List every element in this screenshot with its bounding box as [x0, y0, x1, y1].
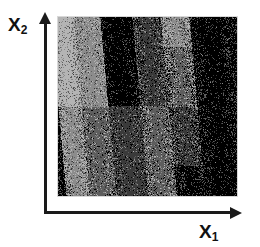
x-axis-label: X1	[199, 222, 218, 241]
y-axis-label-text: X	[8, 14, 21, 35]
right-arrow-icon	[230, 207, 242, 219]
y-axis-label: X2	[8, 15, 27, 34]
x-axis-line	[44, 211, 234, 214]
plot-area	[58, 17, 237, 196]
x-axis-label-subscript: 1	[212, 230, 219, 244]
up-arrow-icon	[39, 12, 51, 24]
y-axis-line	[44, 21, 47, 214]
x-axis-label-text: X	[199, 221, 212, 242]
y-axis-label-subscript: 2	[21, 23, 28, 37]
figure-container: X2 X1	[0, 0, 260, 247]
decision-region-heatmap	[58, 17, 237, 196]
